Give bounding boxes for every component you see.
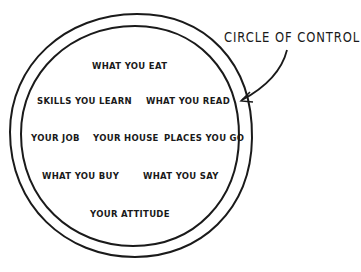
diagram-title: CIRCLE OF CONTROL [224,29,360,45]
item-what-you-read: WHAT YOU READ [146,96,230,106]
item-your-attitude: YOUR ATTITUDE [90,209,170,219]
item-your-house: YOUR HOUSE [93,133,159,143]
item-what-you-buy: WHAT YOU BUY [42,171,119,181]
item-what-you-eat: WHAT YOU EAT [92,61,167,71]
item-skills-you-learn: SKILLS YOU LEARN [37,96,132,106]
item-places-you-go: PLACES YOU GO [164,133,244,143]
item-your-job: YOUR JOB [31,133,80,143]
item-what-you-say: WHAT YOU SAY [143,171,219,181]
